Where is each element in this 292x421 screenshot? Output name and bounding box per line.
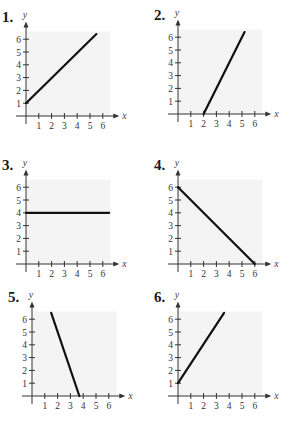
y-arrow-icon — [176, 169, 181, 175]
graph-number: 5. — [8, 289, 20, 305]
x-tick-label: 3 — [214, 119, 219, 129]
x-tick-label: 6 — [100, 269, 105, 279]
y-tick-label: 6 — [168, 183, 173, 193]
x-tick-label: 3 — [62, 121, 67, 131]
x-axis-label: x — [273, 258, 279, 269]
x-tick-label: 3 — [68, 401, 73, 411]
x-tick-label: 4 — [81, 401, 86, 411]
y-tick-label: 2 — [168, 234, 173, 244]
y-tick-label: 2 — [22, 366, 27, 376]
x-tick-label: 2 — [55, 401, 60, 411]
y-tick-label: 3 — [16, 221, 21, 231]
y-tick-label: 3 — [168, 71, 173, 81]
x-tick-label: 1 — [42, 401, 47, 411]
y-tick-label: 3 — [22, 353, 27, 363]
x-tick-label: 6 — [106, 401, 111, 411]
plot-area — [26, 180, 110, 264]
x-tick-label: 1 — [36, 121, 41, 131]
y-arrow-icon — [30, 301, 35, 307]
y-tick-label: 5 — [16, 196, 21, 206]
y-arrow-icon — [24, 21, 29, 27]
x-arrow-icon — [265, 262, 271, 267]
plot-area — [178, 312, 262, 396]
graph-6: 123456123456xy6. — [154, 289, 279, 411]
graph-2: 123456123456xy2. — [154, 7, 279, 129]
y-tick-label: 3 — [168, 353, 173, 363]
y-tick-label: 5 — [22, 328, 27, 338]
y-arrow-icon — [176, 301, 181, 307]
y-axis-label: y — [28, 289, 34, 300]
y-tick-label: 1 — [168, 379, 173, 389]
x-tick-label: 4 — [227, 269, 232, 279]
plot-area — [26, 32, 110, 116]
graphs-canvas: 123456123456xy1.123456123456xy2.12345612… — [0, 0, 292, 421]
plot-area — [178, 180, 262, 264]
y-tick-label: 1 — [168, 247, 173, 257]
graph-number: 4. — [154, 157, 166, 173]
y-tick-label: 1 — [168, 97, 173, 107]
x-tick-label: 5 — [240, 269, 245, 279]
x-tick-label: 3 — [214, 269, 219, 279]
x-tick-label: 5 — [240, 119, 245, 129]
x-arrow-icon — [113, 114, 119, 119]
x-tick-label: 5 — [94, 401, 99, 411]
x-tick-label: 6 — [100, 121, 105, 131]
x-tick-label: 6 — [252, 269, 257, 279]
y-tick-label: 6 — [168, 315, 173, 325]
x-tick-label: 5 — [88, 269, 93, 279]
y-axis-label: y — [174, 157, 180, 168]
x-tick-label: 4 — [75, 269, 80, 279]
y-tick-label: 5 — [168, 328, 173, 338]
x-tick-label: 1 — [188, 119, 193, 129]
y-tick-label: 6 — [168, 33, 173, 43]
y-arrow-icon — [176, 19, 181, 25]
y-tick-label: 4 — [22, 340, 27, 350]
x-tick-label: 1 — [188, 401, 193, 411]
y-tick-label: 4 — [16, 208, 21, 218]
y-tick-label: 1 — [16, 99, 21, 109]
graph-5: 123456123456xy5. — [8, 289, 133, 411]
graph-number: 6. — [154, 289, 166, 305]
y-axis-label: y — [22, 9, 28, 20]
y-tick-label: 2 — [168, 366, 173, 376]
y-arrow-icon — [24, 169, 29, 175]
x-axis-label: x — [273, 390, 279, 401]
y-tick-label: 2 — [168, 84, 173, 94]
x-tick-label: 2 — [49, 269, 54, 279]
graph-number: 2. — [154, 7, 166, 23]
x-tick-label: 3 — [62, 269, 67, 279]
y-axis-label: y — [174, 289, 180, 300]
x-axis-label: x — [127, 390, 133, 401]
x-tick-label: 2 — [49, 121, 54, 131]
x-tick-label: 2 — [201, 269, 206, 279]
x-tick-label: 1 — [36, 269, 41, 279]
y-tick-label: 6 — [16, 183, 21, 193]
y-tick-label: 6 — [22, 315, 27, 325]
x-axis-label: x — [273, 108, 279, 119]
x-tick-label: 1 — [188, 269, 193, 279]
graph-1: 123456123456xy1. — [2, 9, 127, 131]
x-tick-label: 5 — [88, 121, 93, 131]
y-axis-label: y — [22, 157, 28, 168]
y-tick-label: 2 — [16, 86, 21, 96]
x-tick-label: 4 — [75, 121, 80, 131]
y-tick-label: 4 — [168, 58, 173, 68]
x-arrow-icon — [113, 262, 119, 267]
x-tick-label: 3 — [214, 401, 219, 411]
y-tick-label: 4 — [168, 340, 173, 350]
y-tick-label: 3 — [168, 221, 173, 231]
y-tick-label: 1 — [22, 379, 27, 389]
y-tick-label: 5 — [168, 46, 173, 56]
y-tick-label: 6 — [16, 35, 21, 45]
x-axis-label: x — [121, 110, 127, 121]
y-tick-label: 4 — [168, 208, 173, 218]
graph-3: 123456123456xy3. — [2, 157, 127, 279]
plot-area — [178, 30, 262, 114]
x-tick-label: 6 — [252, 401, 257, 411]
y-axis-label: y — [174, 7, 180, 18]
x-arrow-icon — [265, 394, 271, 399]
x-tick-label: 2 — [201, 401, 206, 411]
x-axis-label: x — [121, 258, 127, 269]
x-arrow-icon — [119, 394, 125, 399]
x-tick-label: 4 — [227, 119, 232, 129]
